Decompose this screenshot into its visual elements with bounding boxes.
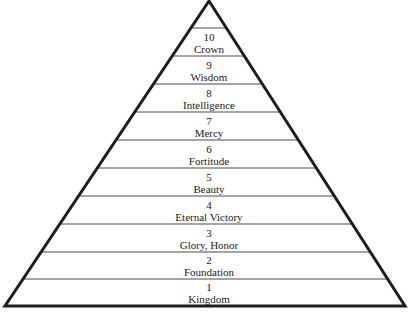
level-name: Foundation [184, 266, 235, 278]
level-number: 6 [206, 143, 212, 155]
level-name: Fortitude [189, 155, 229, 167]
level-number: 1 [206, 281, 212, 293]
level-number: 5 [206, 171, 212, 183]
level-number: 4 [206, 199, 212, 211]
level-number: 9 [206, 59, 212, 71]
level-name: Intelligence [183, 99, 235, 111]
level-number: 7 [206, 115, 212, 127]
level-number: 8 [206, 87, 212, 99]
level-name: Kingdom [188, 293, 230, 305]
level-name: Crown [194, 43, 224, 55]
level-name: Eternal Victory [175, 211, 243, 223]
level-number: 2 [206, 254, 212, 266]
level-number: 3 [206, 227, 212, 239]
level-name: Glory, Honor [180, 239, 239, 251]
level-number: 10 [204, 31, 216, 43]
level-name: Beauty [193, 183, 225, 195]
pyramid-svg: 10Crown9Wisdom8Intelligence7Mercy6Fortit… [0, 0, 409, 317]
pyramid-diagram: 10Crown9Wisdom8Intelligence7Mercy6Fortit… [0, 0, 409, 317]
level-name: Wisdom [191, 71, 228, 83]
level-name: Mercy [195, 127, 224, 139]
